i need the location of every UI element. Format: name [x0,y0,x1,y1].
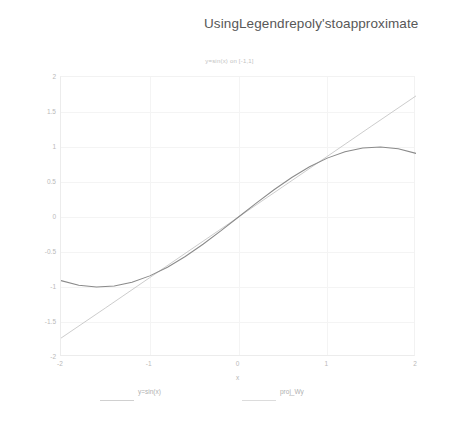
series-sin-x [61,147,416,287]
legend-label: proj_Wy [280,388,304,395]
plot-area [60,76,415,356]
y-tick-label: 0.5 [30,178,56,185]
y-tick-label: 0 [30,213,56,220]
x-tick-label: 0 [226,360,250,367]
y-tick-label: -2 [30,353,56,360]
legend-line-swatch [100,400,134,401]
y-tick-label: 1 [30,143,56,150]
x-tick-label: 2 [403,360,427,367]
y-axis-ticks: 21.510.50-0.5-1-1.5-2 [26,76,56,356]
x-tick-label: 1 [314,360,338,367]
x-tick-label: -1 [137,360,161,367]
y-tick-label: -1.5 [30,318,56,325]
y-tick-label: -1 [30,283,56,290]
x-tick-label: -2 [48,360,72,367]
y-tick-label: -0.5 [30,248,56,255]
x-axis-label: x [60,374,415,381]
legend-label: y=sin(x) [138,388,161,395]
legend: y=sin(x) proj_Wy [60,388,415,414]
chart-title: y=sin(x) on [-1,1] [0,58,459,64]
y-tick-label: 1.5 [30,108,56,115]
plot-curves [61,77,416,357]
legend-line-swatch [242,400,276,401]
x-axis-ticks: -2-1012 [60,360,415,372]
page-heading: UsingLegendrepoly'stoapproximate [204,15,450,33]
figure: y=sin(x) on [-1,1] 21.510.50-0.5-1-1.5-2… [0,44,459,422]
y-tick-label: 2 [30,73,56,80]
